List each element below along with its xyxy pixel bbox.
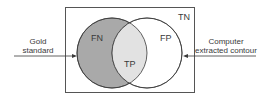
- region-label-fn: FN: [91, 34, 103, 43]
- computer-contour-line2: extracted contour: [191, 46, 261, 55]
- computer-contour-line1: Computer: [191, 37, 261, 46]
- gold-standard-label: Gold standard: [18, 37, 58, 55]
- computer-contour-label: Computer extracted contour: [191, 37, 261, 55]
- region-label-tp: TP: [124, 60, 136, 69]
- gold-standard-line2: standard: [18, 46, 58, 55]
- region-label-tn: TN: [178, 13, 190, 22]
- region-label-fp: FP: [160, 34, 172, 43]
- gold-standard-line1: Gold: [18, 37, 58, 46]
